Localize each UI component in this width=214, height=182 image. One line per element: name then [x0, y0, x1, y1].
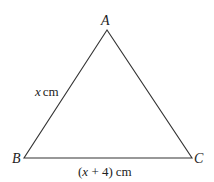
- side-bc-unit: cm: [116, 164, 132, 179]
- side-ab-variable: x: [34, 84, 41, 99]
- vertex-label-a: A: [100, 13, 110, 28]
- side-bc-rest: + 4): [88, 164, 113, 179]
- side-ab-unit: cm: [43, 84, 59, 99]
- vertex-label-c: C: [194, 151, 204, 166]
- triangle-diagram: A B C xcm (x + 4)cm: [0, 0, 214, 182]
- side-bc-label: (x + 4)cm: [78, 164, 132, 179]
- side-ab-label: xcm: [34, 84, 59, 99]
- vertex-label-b: B: [12, 151, 21, 166]
